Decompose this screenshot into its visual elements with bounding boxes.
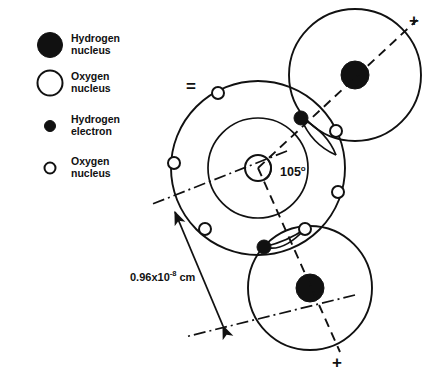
oxygen-electron-right xyxy=(332,186,344,198)
water-molecule-diagram: Hydrogen nucleus Oxygen nucleus Hydrogen… xyxy=(0,0,438,374)
bond-length-exponent: -8 xyxy=(170,269,177,278)
large-filled-circle-icon xyxy=(38,33,63,58)
large-open-circle-icon xyxy=(38,71,63,96)
legend-item-hydrogen-nucleus: Hydrogen nucleus xyxy=(38,32,121,58)
oxygen-electron-left xyxy=(168,157,180,169)
small-open-circle-icon xyxy=(45,163,56,174)
bond-length-mantissa: 0.96x10 xyxy=(130,271,170,283)
molecule-group xyxy=(150,9,421,352)
legend-label-hydrogen-nucleus-line2: nucleus xyxy=(71,44,111,56)
legend: Hydrogen nucleus Oxygen nucleus Hydrogen… xyxy=(38,32,121,179)
oxygen-electron-bond-bottom xyxy=(299,223,311,235)
oxygen-electron-lower-left xyxy=(199,223,211,235)
legend-label-oxygen-nucleus-line1: Oxygen xyxy=(71,70,110,82)
legend-label-oxygen-nucleus-small-line2: nucleus xyxy=(71,167,111,179)
oxygen-electron-bond-top xyxy=(330,125,342,137)
bond-angle-degree-sign: o xyxy=(301,164,306,173)
legend-label-hydrogen-electron-line1: Hydrogen xyxy=(71,113,120,125)
diagram-canvas: Hydrogen nucleus Oxygen nucleus Hydrogen… xyxy=(0,0,438,374)
bond-angle-value: 105 xyxy=(280,165,301,179)
legend-label-hydrogen-electron-line2: electron xyxy=(71,125,112,137)
oxygen-electron-upper-left xyxy=(212,87,224,99)
legend-label-oxygen-nucleus-small-line1: Oxygen xyxy=(71,155,110,167)
svg-text:0.96x10-8 cm: 0.96x10-8 cm xyxy=(130,269,196,283)
bond-length-label: 0.96x10-8 cm xyxy=(130,269,196,283)
charge-label-top: + xyxy=(409,11,419,30)
bond-length-unit: cm xyxy=(180,271,196,283)
small-filled-circle-icon xyxy=(45,121,56,132)
equals-sign-label: = xyxy=(186,77,196,96)
legend-item-oxygen-nucleus-large: Oxygen nucleus xyxy=(38,70,111,96)
legend-item-oxygen-nucleus-small: Oxygen nucleus xyxy=(45,155,111,179)
hydrogen-top-nucleus xyxy=(341,61,369,89)
hydrogen-electron-bottom xyxy=(257,240,271,254)
svg-text:105o: 105o xyxy=(280,164,306,179)
charge-label-bottom: + xyxy=(332,353,342,372)
dashdot-axis-lower xyxy=(185,295,355,337)
legend-item-hydrogen-electron: Hydrogen electron xyxy=(45,113,121,137)
legend-label-hydrogen-nucleus-line1: Hydrogen xyxy=(71,32,120,44)
legend-label-oxygen-nucleus-line2: nucleus xyxy=(71,82,111,94)
hydrogen-bottom-nucleus xyxy=(296,274,324,302)
bond-axis-top-dashed xyxy=(258,20,417,168)
bond-angle-label: 105o xyxy=(280,164,306,179)
